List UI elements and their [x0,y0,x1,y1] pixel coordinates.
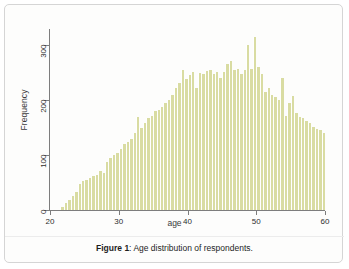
x-tick-mark [256,211,257,215]
y-tick-label: 200 [39,100,48,130]
y-tick-label-wrap: 0 [15,205,43,215]
chart-plot-area: Frequency 0100200300 2030405060 age [5,5,344,233]
x-axis-title: age [5,218,344,228]
caption-divider [5,236,344,237]
figure-caption-label: Figure 1 [96,243,129,253]
figure-caption: Figure 1: Age distribution of respondent… [5,243,344,253]
y-axis-title: Frequency [19,70,29,150]
y-tick-label: 300 [39,45,48,75]
histogram-bar [322,133,325,210]
x-tick-mark [188,211,189,215]
y-tick-label-wrap: 200 [15,95,43,105]
figure-card: Frequency 0100200300 2030405060 age Figu… [4,4,343,263]
x-tick-mark [119,211,120,215]
y-tick-label-wrap: 300 [15,40,43,50]
x-tick-mark [50,211,51,215]
histogram-bars [50,29,325,210]
x-tick-mark [325,211,326,215]
y-tick-label-wrap: 100 [15,150,43,160]
figure-caption-text: Age distribution of respondents. [133,243,253,253]
y-tick-label: 100 [39,155,48,185]
